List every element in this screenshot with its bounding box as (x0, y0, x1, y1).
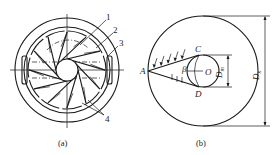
dx-arrow-top (264, 16, 267, 20)
callout-4: 4 (105, 114, 110, 124)
blade-edge (67, 93, 73, 108)
diagram-canvas: 1 2 3 4 (a) Dm (0, 0, 276, 155)
blade (34, 81, 67, 89)
point-a-label: A (139, 66, 146, 76)
tangent-ad (148, 71, 199, 87)
flow-arrow-head (160, 62, 163, 66)
blade-edge (48, 93, 61, 103)
callout-2: 2 (113, 25, 118, 35)
blade (48, 37, 56, 70)
blade-edge (90, 77, 100, 90)
dx-arrow-bottom (264, 122, 267, 126)
blade-edge (34, 51, 44, 64)
blade-edge (74, 37, 87, 47)
point-c-label: C (195, 44, 202, 54)
svg-text:Dx: Dx (251, 71, 262, 82)
figure-a: 1 2 3 4 (a) (10, 12, 124, 148)
angle-beta-label: β (181, 64, 187, 74)
dm-arrow-bottom (227, 83, 230, 87)
point-o-label: O (205, 67, 212, 77)
dm-arrow-top (227, 55, 230, 59)
blade-edge (29, 70, 44, 76)
blade (67, 51, 100, 59)
hub (56, 59, 78, 81)
flow-arrow-head (181, 55, 184, 59)
callout-1: 1 (106, 12, 111, 22)
point-d-label: D (194, 89, 202, 99)
blade-edge (61, 32, 67, 47)
dm-label: Dm (214, 67, 225, 80)
flow-arrow-head (153, 64, 156, 68)
blade-edge (90, 64, 105, 70)
svg-text:Dm: Dm (214, 67, 225, 80)
flow-arrow-head (167, 60, 170, 64)
callout-3: 3 (119, 38, 124, 48)
figure-b: Dm Dx A C D O β (b) (139, 16, 270, 148)
caption-b: (b) (196, 138, 206, 148)
dx-label: Dx (251, 71, 262, 82)
flow-arrows (153, 49, 186, 68)
blade (78, 70, 86, 103)
caption-a: (a) (58, 138, 68, 148)
flow-arrow-head (174, 58, 177, 62)
